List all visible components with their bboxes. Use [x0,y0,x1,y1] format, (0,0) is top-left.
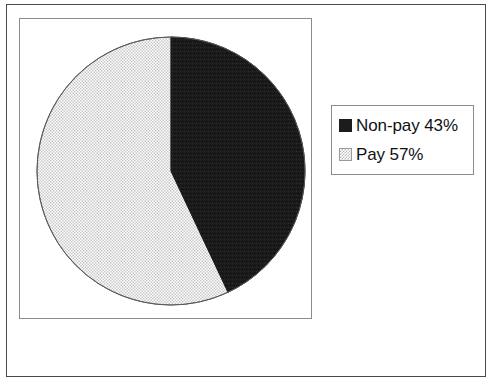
legend-item-non-pay[interactable]: Non-pay 43% [339,111,473,140]
legend-item-label: Pay 57% [356,146,423,164]
solid-black-swatch-icon [339,119,352,132]
stipple-swatch-icon [339,148,352,161]
pie-chart-graphic [20,19,311,318]
chart-legend: Non-pay 43% Pay 57% [331,105,474,175]
legend-item-label: Non-pay 43% [356,117,458,135]
chart-outer-frame: Non-pay 43% Pay 57% [6,4,486,377]
pie-chart-plot-area [19,18,312,319]
legend-item-pay[interactable]: Pay 57% [339,140,473,169]
